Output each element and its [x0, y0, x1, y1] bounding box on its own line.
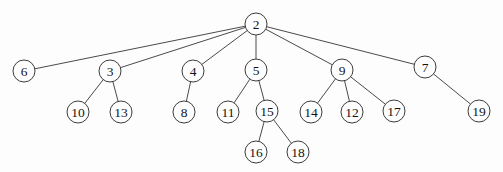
tree-edge-9-12	[345, 81, 350, 102]
tree-edge-3-10	[85, 80, 103, 104]
tree-node-label-5: 5	[253, 63, 260, 78]
tree-node-label-7: 7	[422, 60, 429, 75]
tree-edge-2-6	[35, 26, 245, 69]
tree-node-label-2: 2	[253, 17, 260, 32]
tree-edge-4-8	[186, 82, 190, 102]
tree-node-19: 19	[468, 100, 490, 122]
tree-node-8: 8	[173, 101, 195, 123]
tree-node-label-13: 13	[114, 105, 128, 120]
tree-node-6: 6	[13, 60, 35, 82]
tree-node-label-11: 11	[222, 105, 235, 120]
tree-edge-9-17	[351, 77, 386, 104]
tree-edge-2-4	[202, 31, 247, 65]
tree-node-4: 4	[182, 60, 204, 82]
tree-node-label-19: 19	[472, 104, 486, 119]
tree-node-label-12: 12	[345, 105, 359, 120]
tree-node-3: 3	[99, 60, 121, 82]
tree-node-label-6: 6	[21, 64, 28, 79]
tree-node-5: 5	[245, 59, 267, 81]
tree-edge-5-15	[259, 81, 264, 101]
tree-diagram: 2634597101381115141217191618	[0, 0, 503, 172]
tree-node-label-10: 10	[71, 105, 85, 120]
tree-node-10: 10	[67, 101, 89, 123]
tree-node-9: 9	[331, 59, 353, 81]
tree-node-12: 12	[341, 101, 363, 123]
tree-edge-9-14	[318, 79, 336, 103]
tree-edge-5-11	[234, 79, 250, 103]
tree-edge-15-16	[259, 122, 264, 142]
tree-node-label-9: 9	[339, 63, 346, 78]
tree-edge-7-19	[434, 74, 471, 104]
tree-node-15: 15	[256, 100, 278, 122]
tree-node-13: 13	[110, 101, 132, 123]
tree-node-14: 14	[300, 101, 322, 123]
tree-node-11: 11	[217, 101, 239, 123]
tree-node-7: 7	[414, 56, 436, 78]
tree-edge-3-13	[113, 82, 118, 102]
tree-node-17: 17	[383, 100, 405, 122]
tree-node-label-17: 17	[387, 104, 401, 119]
tree-node-label-16: 16	[249, 145, 263, 160]
tree-node-label-3: 3	[107, 64, 114, 79]
tree-node-label-18: 18	[291, 145, 305, 160]
tree-node-label-8: 8	[181, 105, 188, 120]
tree-edge-15-18	[274, 120, 292, 143]
tree-node-2: 2	[245, 13, 267, 35]
tree-node-18: 18	[287, 141, 309, 163]
tree-diagram-canvas: 2634597101381115141217191618	[0, 0, 503, 172]
tree-node-label-15: 15	[260, 104, 274, 119]
tree-node-label-4: 4	[190, 64, 197, 79]
tree-node-label-14: 14	[304, 105, 318, 120]
tree-node-16: 16	[245, 141, 267, 163]
